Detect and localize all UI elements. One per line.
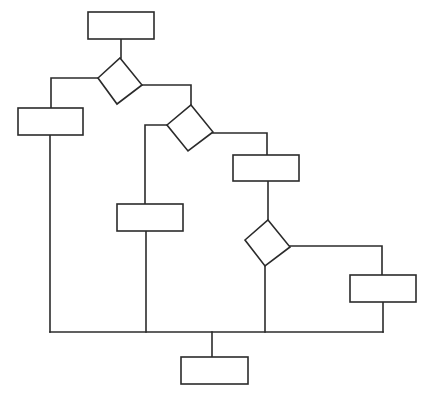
flowchart-svg	[0, 0, 432, 395]
connector-decision-3-to-right	[290, 246, 382, 275]
process-node-process-left	[18, 108, 83, 135]
process-box	[117, 204, 183, 231]
decision-diamond	[167, 105, 213, 151]
flowchart-canvas	[0, 0, 432, 395]
process-box	[181, 357, 248, 384]
decision-diamond	[245, 220, 290, 266]
edges-layer	[50, 39, 383, 357]
process-box	[18, 108, 83, 135]
process-node-start-process	[88, 12, 154, 39]
decision-node-decision-3	[245, 220, 290, 266]
process-node-process-right	[350, 275, 416, 302]
decision-diamond	[98, 58, 142, 104]
process-box	[88, 12, 154, 39]
nodes-layer	[18, 12, 416, 384]
process-box	[350, 275, 416, 302]
connector-decision-1-to-decision-2	[142, 85, 191, 105]
process-box	[233, 155, 299, 181]
process-node-process-right-upper	[233, 155, 299, 181]
process-node-process-middle	[117, 204, 183, 231]
connector-decision-1-to-left	[51, 78, 98, 108]
decision-node-decision-1	[98, 58, 142, 104]
process-node-end-process	[181, 357, 248, 384]
connector-decision-2-to-right-upper	[213, 133, 267, 155]
connector-decision-2-to-middle	[145, 125, 167, 204]
decision-node-decision-2	[167, 105, 213, 151]
